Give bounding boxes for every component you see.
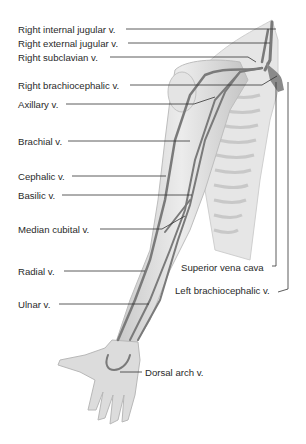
- label-right-subclavian: Right subclavian v.: [18, 52, 98, 63]
- label-basilic: Basilic v.: [18, 190, 55, 201]
- label-right-brachiocephalic: Right brachiocephalic v.: [18, 80, 119, 91]
- label-right-external-jugular: Right external jugular v.: [18, 38, 118, 49]
- label-superior-vena-cava: Superior vena cava: [181, 262, 264, 273]
- label-axillary: Axillary v.: [18, 99, 58, 110]
- anatomy-diagram: Right internal jugular v. Right external…: [0, 0, 306, 444]
- label-dorsal-arch: Dorsal arch v.: [145, 367, 203, 378]
- label-left-brachiocephalic: Left brachiocephalic v.: [175, 285, 270, 296]
- label-cephalic: Cephalic v.: [18, 171, 65, 182]
- label-median-cubital: Median cubital v.: [18, 224, 89, 235]
- label-right-internal-jugular: Right internal jugular v.: [18, 24, 115, 35]
- label-radial: Radial v.: [18, 266, 55, 277]
- label-ulnar: Ulnar v.: [18, 299, 50, 310]
- label-brachial: Brachial v.: [18, 136, 62, 147]
